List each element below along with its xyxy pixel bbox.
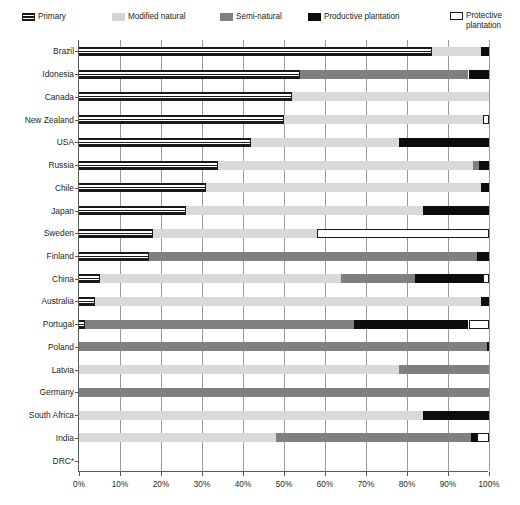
bar-segment-primary[interactable]: [79, 92, 292, 101]
bar-row[interactable]: [79, 252, 489, 261]
bar-segment-semi[interactable]: [85, 320, 354, 329]
bar-row[interactable]: [79, 388, 489, 397]
bar-segment-primary[interactable]: [79, 297, 95, 306]
bar-segment-modified[interactable]: [79, 411, 423, 420]
bar-segment-modified[interactable]: [432, 47, 481, 56]
bar-row[interactable]: [79, 206, 489, 215]
x-axis-label: 50%: [276, 480, 292, 489]
bar-segment-modified[interactable]: [292, 92, 489, 101]
y-axis-label: Chile: [55, 184, 74, 193]
bar-segment-protective[interactable]: [483, 274, 489, 283]
bar-segment-modified[interactable]: [79, 433, 276, 442]
bar-segment-modified[interactable]: [186, 206, 424, 215]
bar-segment-productive[interactable]: [423, 411, 489, 420]
bar-segment-primary[interactable]: [79, 115, 284, 124]
x-axis-label: 60%: [317, 480, 333, 489]
legend-label-primary: Primary: [38, 12, 66, 22]
bar-row[interactable]: [79, 297, 489, 306]
bar-row[interactable]: [79, 342, 489, 351]
bar-segment-semi[interactable]: [341, 274, 415, 283]
legend-item-productive[interactable]: Productive plantation: [308, 12, 399, 22]
bar-segment-semi[interactable]: [149, 252, 477, 261]
x-axis-tick: [243, 472, 244, 476]
bar-row[interactable]: [79, 433, 489, 442]
legend-item-protective[interactable]: Protective plantation: [450, 11, 512, 30]
y-axis-label: South Africa: [29, 411, 74, 420]
bar-segment-primary[interactable]: [79, 274, 100, 283]
bar-segment-semi[interactable]: [79, 388, 489, 397]
bar-segment-modified[interactable]: [79, 365, 399, 374]
bar-segment-modified[interactable]: [153, 229, 317, 238]
bar-segment-primary[interactable]: [79, 206, 186, 215]
forest-composition-chart: PrimaryModified naturalSemi-naturalProdu…: [0, 0, 520, 505]
legend-item-semi[interactable]: Semi-natural: [220, 12, 282, 22]
bar-segment-productive[interactable]: [354, 320, 469, 329]
bar-segment-productive[interactable]: [481, 183, 489, 192]
bar-segment-protective[interactable]: [483, 115, 489, 124]
x-axis-tick: [448, 472, 449, 476]
bar-segment-primary[interactable]: [79, 138, 251, 147]
bar-row[interactable]: [79, 115, 489, 124]
x-axis-label: 0%: [73, 480, 85, 489]
bar-segment-productive[interactable]: [481, 47, 489, 56]
bar-segment-protective[interactable]: [477, 433, 489, 442]
bar-segment-modified[interactable]: [206, 183, 481, 192]
bar-segment-modified[interactable]: [218, 161, 472, 170]
x-axis-tick: [120, 472, 121, 476]
protective-swatch: [450, 12, 463, 20]
semi-swatch: [220, 13, 233, 21]
y-axis-label: Finland: [47, 252, 74, 261]
x-axis-tick: [489, 472, 490, 476]
modified-swatch: [112, 13, 125, 21]
bar-row[interactable]: [79, 274, 489, 283]
y-axis-label: Sweden: [44, 229, 74, 238]
productive-swatch: [308, 13, 321, 21]
bar-segment-productive[interactable]: [477, 252, 489, 261]
bar-segment-productive[interactable]: [469, 70, 490, 79]
bar-segment-productive[interactable]: [479, 161, 489, 170]
x-axis-label: 40%: [235, 480, 251, 489]
bar-segment-semi[interactable]: [276, 433, 471, 442]
bar-row[interactable]: [79, 411, 489, 420]
bar-row[interactable]: [79, 70, 489, 79]
bar-row[interactable]: [79, 456, 489, 465]
bar-segment-modified[interactable]: [251, 138, 399, 147]
bar-segment-semi[interactable]: [79, 342, 487, 351]
bar-segment-productive[interactable]: [481, 297, 489, 306]
bar-row[interactable]: [79, 47, 489, 56]
legend-item-primary[interactable]: Primary: [22, 12, 66, 22]
bar-row[interactable]: [79, 365, 489, 374]
bar-segment-primary[interactable]: [79, 183, 206, 192]
bar-row[interactable]: [79, 161, 489, 170]
bar-segment-protective[interactable]: [469, 320, 490, 329]
legend-label-semi: Semi-natural: [236, 12, 282, 22]
bar-row[interactable]: [79, 138, 489, 147]
x-axis-tick: [161, 472, 162, 476]
bar-row[interactable]: [79, 92, 489, 101]
bar-segment-modified[interactable]: [284, 115, 483, 124]
x-axis-tick: [79, 472, 80, 476]
y-axis-label: Russia: [48, 161, 74, 170]
bar-segment-primary[interactable]: [79, 252, 149, 261]
bar-row[interactable]: [79, 320, 489, 329]
bar-segment-productive[interactable]: [423, 206, 489, 215]
x-axis-tick: [407, 472, 408, 476]
bar-row[interactable]: [79, 183, 489, 192]
bar-segment-productive[interactable]: [415, 274, 483, 283]
bar-segment-modified[interactable]: [95, 297, 480, 306]
bar-row[interactable]: [79, 229, 489, 238]
bar-segment-productive[interactable]: [487, 342, 489, 351]
bar-segment-semi[interactable]: [399, 365, 489, 374]
bar-segment-primary[interactable]: [79, 161, 218, 170]
legend-item-modified[interactable]: Modified natural: [112, 12, 185, 22]
bar-segment-primary[interactable]: [79, 47, 432, 56]
bar-segment-protective[interactable]: [317, 229, 489, 238]
bar-segment-modified[interactable]: [100, 274, 342, 283]
x-axis-label: 30%: [194, 480, 210, 489]
bar-segment-primary[interactable]: [79, 229, 153, 238]
bar-segment-semi[interactable]: [300, 70, 468, 79]
bar-segment-productive[interactable]: [399, 138, 489, 147]
y-axis-label: Poland: [48, 343, 74, 352]
bar-segment-primary[interactable]: [79, 70, 300, 79]
y-axis-label: Idonesia: [42, 70, 74, 79]
